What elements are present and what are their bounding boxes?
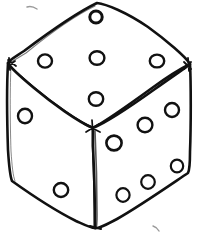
pip: [90, 51, 105, 65]
pip: [106, 136, 121, 151]
pip: [89, 92, 103, 106]
pip: [38, 54, 52, 67]
pip: [150, 55, 164, 68]
dice-sketch-canvas: [0, 0, 199, 235]
pip: [116, 188, 129, 202]
pip: [90, 11, 102, 23]
pip: [54, 183, 68, 197]
dice-illustration: [0, 0, 199, 235]
pip: [171, 160, 183, 173]
pip: [18, 109, 32, 123]
pip: [165, 103, 179, 117]
pip: [138, 118, 153, 132]
pip: [141, 175, 155, 189]
